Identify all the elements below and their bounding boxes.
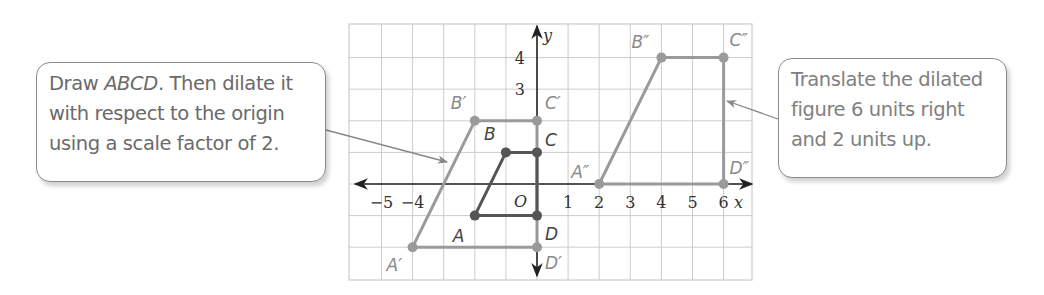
svg-text:2: 2: [594, 193, 604, 212]
svg-text:A: A: [452, 226, 465, 246]
svg-text:−5: −5: [370, 193, 394, 212]
svg-text:y: y: [542, 26, 553, 45]
svg-text:4: 4: [515, 49, 525, 68]
svg-text:A′: A′: [386, 255, 403, 275]
callout-line: using a scale factor of 2.: [49, 129, 325, 159]
instruction-callout-dilate: Draw ABCD. Then dilate it with respect t…: [36, 62, 326, 182]
svg-text:−4: −4: [401, 193, 425, 212]
svg-text:O: O: [514, 192, 527, 211]
svg-text:4: 4: [656, 193, 666, 212]
callout-line: Draw ABCD. Then dilate it: [49, 69, 325, 99]
callout-line: with respect to the origin: [49, 99, 325, 129]
svg-text:B: B: [484, 124, 496, 144]
text: . Then dilate it: [158, 72, 293, 95]
svg-text:D′: D′: [545, 253, 562, 273]
svg-text:B′: B′: [451, 93, 467, 113]
svg-text:D: D: [545, 224, 558, 244]
svg-text:3: 3: [515, 80, 525, 99]
svg-text:1: 1: [563, 193, 573, 212]
svg-text:x: x: [734, 193, 743, 212]
svg-text:C′: C′: [545, 93, 561, 113]
svg-text:B″: B″: [631, 32, 650, 52]
svg-text:5: 5: [687, 193, 697, 212]
svg-text:D″: D″: [730, 158, 750, 178]
text: Draw: [49, 72, 104, 95]
callout-line: and 2 units up.: [791, 125, 1006, 155]
callout-line: figure 6 units right: [791, 95, 1006, 125]
instruction-callout-translate: Translate the dilated figure 6 units rig…: [778, 58, 1007, 178]
svg-text:6: 6: [719, 193, 729, 212]
callout-line: Translate the dilated: [791, 65, 1006, 95]
svg-text:A″: A″: [570, 162, 590, 182]
figure-name: ABCD: [104, 72, 158, 95]
svg-text:C: C: [545, 130, 557, 150]
svg-text:3: 3: [625, 193, 635, 212]
svg-text:C″: C″: [730, 30, 749, 50]
